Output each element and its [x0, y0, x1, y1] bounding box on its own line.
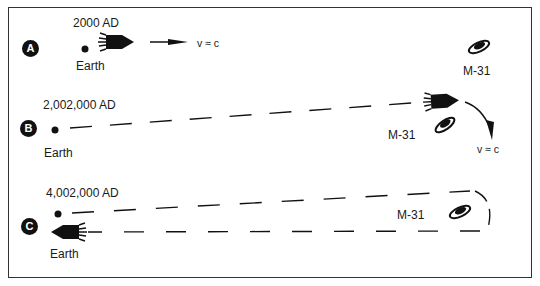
spaceship-b-icon — [423, 91, 460, 111]
earth-label-c: Earth — [50, 248, 79, 261]
galaxy-label-b: M-31 — [388, 129, 415, 142]
turnaround-arc-c — [475, 191, 490, 228]
date-label-a: 2000 AD — [73, 17, 119, 30]
date-label-c: 4,002,000 AD — [46, 187, 119, 200]
spaceship-a-icon — [98, 33, 134, 51]
earth-dot-a — [82, 46, 89, 53]
galaxy-m31-c-icon — [448, 203, 472, 220]
panel-badge-b: B — [20, 120, 37, 137]
diagram-canvas — [0, 0, 540, 286]
velocity-label-b: v ≈ c — [477, 143, 499, 156]
trajectory-out-b — [70, 103, 412, 128]
earth-label-b: Earth — [44, 147, 73, 160]
galaxy-m31-b-icon — [432, 114, 458, 135]
galaxy-label-a: M-31 — [463, 65, 490, 78]
velocity-label-a: v ≈ c — [197, 37, 219, 50]
date-label-b: 2,002,000 AD — [43, 99, 116, 112]
velocity-arrow-b — [465, 102, 494, 140]
panel-badge-c: C — [21, 218, 38, 235]
trajectory-return-c — [88, 231, 480, 232]
earth-dot-b — [52, 127, 59, 134]
earth-label-a: Earth — [76, 60, 105, 73]
panel-a — [82, 33, 491, 56]
galaxy-label-c: M-31 — [397, 209, 424, 222]
velocity-arrow-a — [150, 39, 188, 45]
earth-dot-c — [55, 211, 62, 218]
panel-badge-a: A — [22, 40, 39, 57]
panel-b — [52, 91, 495, 140]
galaxy-m31-a-icon — [467, 38, 491, 55]
spaceship-c-icon — [51, 223, 87, 241]
